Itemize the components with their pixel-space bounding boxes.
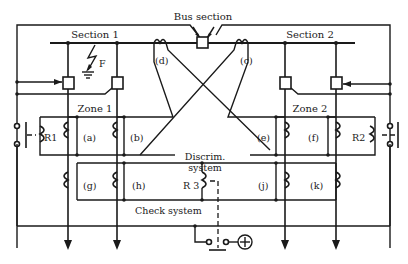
- ct-b-label: (b): [130, 132, 144, 143]
- ct-k-label: (k): [310, 180, 323, 191]
- ct-h-label: (h): [132, 180, 146, 191]
- ct-f-label: (f): [308, 132, 319, 143]
- breaker-3: [280, 77, 291, 89]
- ct-d-label: (d): [155, 55, 169, 66]
- ct-c-label: (c): [240, 55, 253, 66]
- relay-r2: [370, 126, 374, 142]
- relay-r1-label: R1: [44, 132, 57, 143]
- ct-e-label: (e): [257, 132, 270, 143]
- breaker-1: [63, 77, 74, 89]
- bus-section-breaker: [197, 37, 208, 48]
- fault-icon: [82, 45, 96, 78]
- bus-section-label: Bus section: [174, 11, 233, 22]
- ct-j-label: (j): [258, 180, 268, 191]
- ct-a-label: (a): [83, 132, 96, 143]
- relay-r3-label: R 3: [183, 180, 199, 191]
- discrim-system-label-1: Discrim.: [185, 151, 225, 162]
- busbar-protection-diagram: Bus section Section 1 Section 2 F: [0, 0, 408, 264]
- relay-r2-label: R2: [352, 132, 365, 143]
- fault-label: F: [99, 58, 106, 69]
- section-1-label: Section 1: [71, 29, 119, 40]
- check-system-label: Check system: [135, 205, 202, 216]
- positive-supply-icon: [238, 235, 252, 249]
- breaker-4: [331, 77, 342, 89]
- ct-g-label: (g): [83, 180, 97, 191]
- relay-r3: [202, 172, 206, 188]
- zone-2-label: Zone 2: [293, 103, 328, 114]
- section-2-label: Section 2: [286, 29, 334, 40]
- zone-1-label: Zone 1: [78, 103, 113, 114]
- breaker-2: [112, 77, 123, 89]
